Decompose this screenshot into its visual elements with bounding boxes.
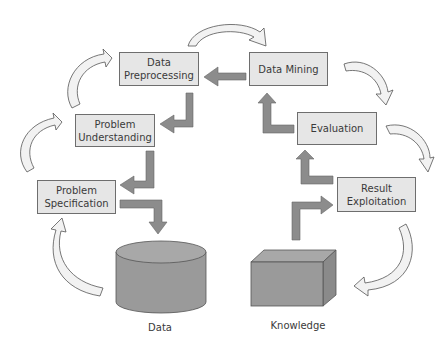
- flow-arrows: [120, 67, 333, 240]
- elbow-arrow-icon: [120, 151, 154, 194]
- cycle-arrow-icon: [354, 224, 412, 296]
- elbow-arrow-icon: [120, 200, 167, 234]
- diagram-canvas: [0, 0, 447, 345]
- cycle-arrows: [21, 24, 434, 296]
- step-evaluation: Evaluation: [297, 112, 377, 145]
- step-label: Evaluation: [311, 122, 364, 135]
- data-cylinder: [116, 241, 206, 313]
- step-label: Data: [124, 56, 194, 69]
- step-label: Specification: [44, 197, 108, 210]
- step-label: Exploitation: [347, 195, 406, 208]
- elbow-arrow-icon: [296, 150, 333, 184]
- knowledge-store-label: Knowledge: [258, 320, 338, 331]
- cycle-arrow-icon: [386, 125, 434, 172]
- step-problem-specification: ProblemSpecification: [37, 180, 116, 214]
- step-label: Result: [347, 182, 406, 195]
- step-label: Problem: [44, 184, 108, 197]
- cycle-arrow-icon: [344, 62, 393, 105]
- elbow-arrow-icon: [160, 93, 193, 133]
- step-result-exploitation: ResultExploitation: [337, 177, 416, 212]
- data-store-label: Data: [140, 322, 180, 333]
- cycle-arrow-icon: [21, 113, 62, 172]
- step-label: Problem: [78, 118, 152, 131]
- elbow-arrow-icon: [258, 93, 294, 133]
- cycle-arrow-icon: [68, 49, 112, 108]
- step-label: Understanding: [78, 131, 152, 144]
- step-problem-understanding: ProblemUnderstanding: [75, 114, 155, 147]
- step-label: Preprocessing: [124, 69, 194, 82]
- step-label: Data Mining: [258, 63, 318, 76]
- left-arrow-icon: [204, 67, 246, 86]
- step-data-preprocessing: DataPreprocessing: [119, 52, 199, 86]
- knowledge-cube: [251, 250, 336, 306]
- step-data-mining: Data Mining: [249, 52, 328, 86]
- elbow-arrow-icon: [292, 196, 333, 240]
- cycle-arrow-icon: [51, 218, 103, 296]
- cycle-arrow-icon: [188, 24, 266, 46]
